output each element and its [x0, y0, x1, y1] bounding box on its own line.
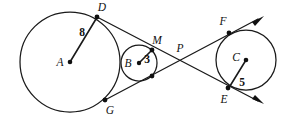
arrowhead-lower-right-icon: [252, 95, 264, 104]
point-dot-f: [227, 31, 232, 36]
label-center-c: C: [232, 51, 240, 63]
point-dot-m: [150, 48, 155, 53]
label-point-g: G: [106, 104, 115, 116]
geometry-canvas: D M P F G E A B C 8 3 5: [0, 0, 292, 121]
label-radius-c: 5: [239, 76, 245, 88]
point-dot-d: [95, 15, 100, 20]
center-dot-b: [137, 61, 141, 65]
label-center-b: B: [124, 57, 131, 69]
label-point-p: P: [175, 42, 183, 54]
point-dot-g: [103, 98, 108, 103]
label-radius-b: 3: [144, 53, 150, 65]
label-point-e: E: [219, 93, 227, 105]
label-point-f: F: [218, 15, 227, 27]
point-dot-e: [226, 86, 231, 91]
label-point-m: M: [151, 34, 163, 46]
center-dot-c: [244, 58, 249, 63]
label-point-d: D: [97, 1, 107, 13]
label-radius-a: 8: [79, 26, 85, 38]
label-center-a: A: [55, 56, 64, 68]
geometry-figure: D M P F G E A B C 8 3 5: [0, 0, 292, 121]
point-dot-b-lower-tangency: [150, 74, 155, 79]
center-dot-a: [68, 60, 73, 65]
